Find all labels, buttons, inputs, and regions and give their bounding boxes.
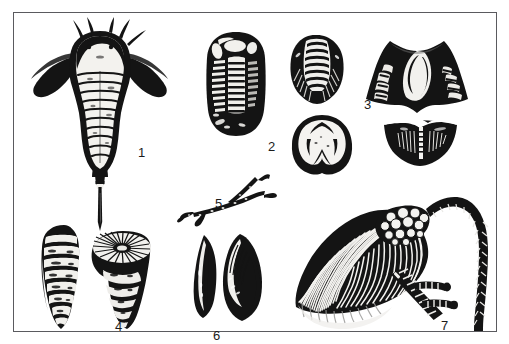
figure-label-6: 6 — [213, 329, 220, 342]
figure-label-1: 1 — [138, 146, 145, 159]
specimen-brachiopods — [280, 21, 480, 176]
fossil-plate: 1 2 3 4 5 6 7 — [0, 0, 509, 344]
figure-label-5: 5 — [215, 197, 222, 210]
figure-label-3: 3 — [364, 98, 371, 111]
specimen-crinoid-and-stems — [258, 165, 498, 337]
figure-label-7: 7 — [441, 319, 448, 332]
plate-frame-border: 1 2 3 4 5 6 7 — [13, 12, 497, 332]
figure-label-4: 4 — [115, 320, 122, 333]
specimen-trilobite — [196, 26, 276, 146]
specimen-eurypterid — [23, 17, 173, 197]
specimen-rugose-corals — [26, 213, 166, 338]
figure-label-2: 2 — [268, 140, 275, 153]
